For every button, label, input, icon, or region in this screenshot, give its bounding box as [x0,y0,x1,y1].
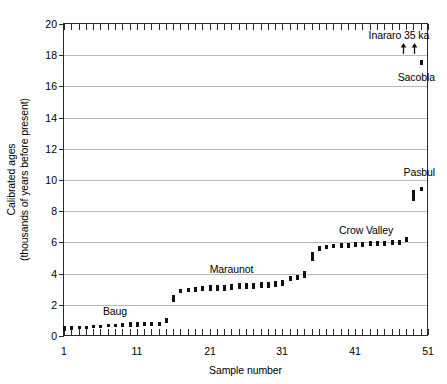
data-point [121,323,124,327]
y-tick-label-20: 20 [17,18,57,30]
y-tick-2 [59,305,64,306]
x-tick-top-4 [86,24,87,30]
data-point [143,322,146,326]
x-tick-bottom-24 [231,329,232,335]
x-tick-top-17 [180,24,181,30]
data-point [129,322,132,327]
x-tick-bottom-14 [159,329,160,335]
x-tick-bottom-19 [195,329,196,335]
x-tick-top-26 [246,24,247,30]
inararo-arrow-left-icon [399,40,408,51]
y-tick-16 [59,86,64,87]
data-point [99,325,102,328]
data-point [158,322,161,326]
data-point [369,241,372,246]
x-tick-top-18 [188,24,189,30]
x-tick-bottom-51 [428,329,429,335]
gridline-y-14 [64,118,427,119]
data-point [252,283,255,289]
figure-container: Calibrated ages (thousands of years befo… [0,0,447,384]
x-tick-top-28 [261,24,262,30]
x-tick-top-22 [217,24,218,30]
gridline-y-8 [64,211,427,212]
y-tick-label-16: 16 [17,80,57,92]
x-tick-label-11: 11 [122,345,152,357]
x-tick-top-33 [297,24,298,30]
x-tick-label-51: 51 [413,345,443,357]
data-point [405,237,408,242]
data-point [361,242,364,247]
x-tick-top-5 [93,24,94,30]
data-point [223,285,226,291]
data-point [354,242,357,247]
x-tick-bottom-35 [312,329,313,335]
data-point [303,271,306,278]
data-point [92,325,95,328]
y-tick-label-14: 14 [17,112,57,124]
data-point [70,326,73,330]
x-tick-top-15 [166,24,167,30]
data-point [172,295,175,302]
x-tick-bottom-41 [355,329,356,335]
x-tick-top-27 [253,24,254,30]
x-tick-top-14 [159,24,160,30]
x-tick-top-7 [108,24,109,30]
data-point [165,318,168,323]
x-tick-bottom-36 [319,329,320,335]
x-tick-bottom-40 [348,329,349,335]
x-tick-bottom-23 [224,329,225,335]
y-tick-6 [59,242,64,243]
x-tick-bottom-9 [122,329,123,335]
y-tick-label-2: 2 [17,299,57,311]
x-tick-bottom-20 [202,329,203,335]
x-tick-bottom-28 [261,329,262,335]
x-tick-top-40 [348,24,349,30]
x-tick-top-24 [231,24,232,30]
x-tick-bottom-18 [188,329,189,335]
annotation-pasbul: Pasbul [403,166,435,178]
x-tick-top-13 [151,24,152,30]
annotation-sacobla: Sacobla [398,71,435,83]
data-point [347,243,350,248]
gridline-y-18 [64,55,427,56]
y-tick-label-12: 12 [17,143,57,155]
x-tick-bottom-48 [406,329,407,335]
x-tick-bottom-30 [275,329,276,335]
x-tick-top-3 [79,24,80,30]
data-point [340,243,343,248]
gridline-y-16 [64,86,427,87]
data-point [376,241,379,246]
x-axis-title: Sample number [63,364,428,376]
y-tick-14 [59,118,64,119]
y-tick-label-8: 8 [17,205,57,217]
x-tick-bottom-13 [151,329,152,335]
x-tick-top-25 [239,24,240,30]
data-point [311,252,314,261]
x-tick-top-10 [130,24,131,30]
annotation-crow-valley: Crow Valley [339,224,393,236]
x-tick-bottom-45 [384,329,385,335]
x-tick-bottom-4 [86,329,87,335]
x-tick-top-39 [341,24,342,30]
x-tick-top-2 [71,24,72,30]
x-tick-bottom-44 [377,329,378,335]
x-tick-top-21 [210,24,211,30]
y-tick-18 [59,55,64,56]
y-tick-8 [59,211,64,212]
y-tick-label-0: 0 [17,330,57,342]
x-tick-label-41: 41 [340,345,370,357]
x-tick-top-38 [333,24,334,30]
data-point [107,324,110,327]
data-point [398,240,401,245]
x-tick-top-41 [355,24,356,30]
x-tick-top-11 [137,24,138,30]
x-tick-label-1: 1 [49,345,79,357]
x-tick-bottom-32 [290,329,291,335]
x-tick-bottom-17 [180,329,181,335]
x-tick-bottom-29 [268,329,269,335]
y-tick-label-10: 10 [17,174,57,186]
x-tick-bottom-6 [100,329,101,335]
x-tick-top-31 [282,24,283,30]
x-tick-bottom-50 [421,329,422,335]
x-tick-top-8 [115,24,116,30]
